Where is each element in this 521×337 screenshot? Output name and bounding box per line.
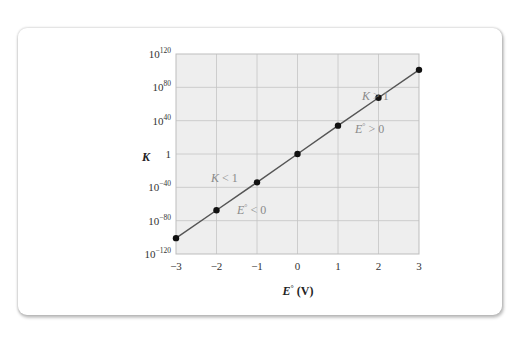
- x-axis-title: E° (V): [282, 284, 314, 298]
- y-tick-label: 10−120: [145, 246, 172, 260]
- y-tick-label: 1: [166, 148, 172, 160]
- annotation-k-less-1: K < 1: [210, 171, 238, 185]
- annotation-e-less-0: E° < 0: [236, 203, 266, 217]
- annotation-k-greater-1: K > 1: [361, 89, 389, 103]
- data-point: [294, 151, 300, 157]
- y-tick-label: 1080: [153, 79, 172, 93]
- y-tick-label: 10−40: [148, 179, 171, 193]
- data-point: [254, 179, 260, 185]
- x-tick-label: 2: [376, 260, 382, 272]
- x-tick-label: 0: [295, 260, 301, 272]
- chart: −3−2−101231012010801040110−4010−8010−120…: [0, 0, 521, 337]
- data-point: [416, 67, 422, 73]
- y-tick-label: 10−80: [148, 213, 171, 227]
- data-point: [173, 235, 179, 241]
- y-axis-title: K: [141, 150, 151, 164]
- data-point: [335, 122, 341, 128]
- y-tick-label: 10120: [149, 46, 172, 60]
- x-tick-label: 3: [416, 260, 422, 272]
- annotation-e-greater-0: E° > 0: [354, 122, 384, 136]
- x-tick-label: 1: [335, 260, 341, 272]
- data-point: [213, 207, 219, 213]
- y-tick-label: 1040: [153, 113, 172, 127]
- x-tick-label: −3: [170, 260, 182, 272]
- x-tick-label: −1: [251, 260, 263, 272]
- x-tick-label: −2: [211, 260, 223, 272]
